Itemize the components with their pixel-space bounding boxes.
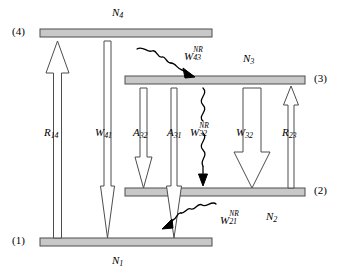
transition-symbol-A32: A [133, 126, 140, 138]
transition-subscript-R14: 14 [51, 131, 59, 140]
level-3-bar [125, 76, 305, 84]
transition-label-A31: A31 [167, 127, 181, 140]
population-subscript-N3: 3 [250, 57, 254, 66]
transition-scripts-W43NR: NR43 [193, 49, 205, 60]
transition-label-A32: A32 [133, 127, 147, 140]
transition-label-R14: R14 [44, 127, 58, 140]
transition-symbol-W32: W [236, 126, 245, 138]
transition-symbol-W43NR: W [184, 50, 193, 62]
population-subscript-N2: 2 [273, 215, 277, 224]
transition-label-W21NR: WNR21 [220, 213, 241, 226]
level-marker-4: (4) [12, 26, 25, 37]
transition-subscript-W41: 41 [104, 131, 112, 140]
transition-symbol-A31: A [167, 126, 174, 138]
population-label-N1: N1 [112, 255, 123, 268]
transition-symbol-W32NR: W [190, 126, 199, 138]
transition-arrow-A31 [167, 88, 182, 238]
transition-label-W41: W41 [95, 127, 112, 140]
transition-symbol-W41: W [95, 126, 104, 138]
transition-subscript-A32: 32 [140, 131, 148, 140]
level-2-bar [125, 188, 305, 196]
population-label-N4: N4 [112, 7, 123, 20]
transition-label-W43NR: WNR43 [184, 49, 205, 62]
energy-level-diagram: (4) (3) (2) (1) N4 N3 N2 N1 R14 W41 A32 … [0, 0, 340, 276]
transition-subscript-A31: 31 [174, 131, 182, 140]
transition-subscript-W43NR: 43 [193, 54, 201, 62]
transition-label-R23: R23 [282, 127, 296, 140]
transition-symbol-R23: R [282, 126, 289, 138]
level-marker-3: (3) [314, 73, 327, 84]
level-4-bar [40, 29, 212, 37]
transition-subscript-R23: 23 [289, 131, 297, 140]
transition-scripts-W32NR: NR32 [199, 125, 211, 136]
transition-symbol-R14: R [44, 126, 51, 138]
population-label-N2: N2 [266, 211, 277, 224]
transition-subscript-W32NR: 32 [199, 130, 207, 138]
level-marker-2: (2) [314, 185, 327, 196]
population-subscript-N4: 4 [119, 11, 123, 20]
transition-label-W32: W32 [236, 127, 253, 140]
transition-subscript-W32: 32 [245, 131, 253, 140]
transition-label-W32NR: WNR32 [190, 125, 211, 138]
transition-symbol-W21NR: W [220, 214, 229, 226]
level-1-bar [40, 238, 212, 246]
transition-scripts-W21NR: NR21 [229, 213, 241, 224]
level-marker-1: (1) [12, 235, 25, 246]
population-subscript-N1: 1 [119, 259, 123, 268]
population-label-N3: N3 [243, 53, 254, 66]
transition-subscript-W21NR: 21 [229, 218, 237, 226]
